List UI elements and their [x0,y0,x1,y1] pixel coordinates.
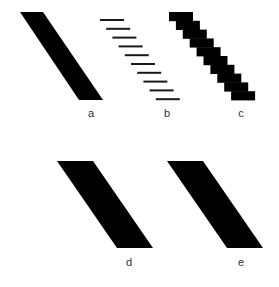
panel-e-antialiased-parallelogram [167,161,263,248]
panel-label-d: d [119,256,139,268]
stair-step [183,30,207,39]
stair-step [231,91,255,100]
panel-d-antialiased-parallelogram [57,161,153,248]
scanline [150,89,174,91]
scanline [125,54,149,56]
scanline [131,63,155,65]
panel-label-a: a [81,107,101,119]
scanline [100,19,124,21]
panel-label-c: c [231,107,251,119]
stair-step [176,21,200,30]
scanline [143,81,167,83]
stair-step [217,74,241,83]
edge-rendering-figure [0,0,279,287]
parallelogram-shape [20,12,103,100]
panel-a-solid-parallelogram [20,12,103,100]
scanline [156,98,180,100]
stair-step [190,38,214,47]
panel-label-e: e [231,256,251,268]
panel-c-staircase [169,12,255,100]
antialiased-shape [57,161,153,248]
scanline [137,72,161,74]
antialiased-shape [167,161,263,248]
panel-b-scanlines [100,19,180,100]
stair-step [197,47,221,56]
scanline [119,45,143,47]
stair-step [169,12,193,21]
stair-step [210,65,234,74]
scanline [106,28,130,30]
panel-label-b: b [157,107,177,119]
stair-step [204,56,228,65]
scanline [112,37,136,39]
stair-step [224,82,248,91]
